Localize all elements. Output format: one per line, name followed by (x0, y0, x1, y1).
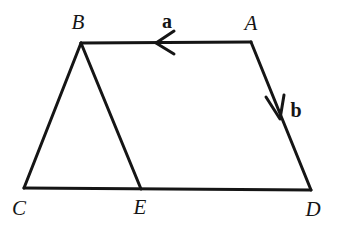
geometry-figure: B A C E D a b (0, 0, 340, 225)
segment-BA (81, 42, 251, 43)
vertex-label-C: C (12, 198, 26, 219)
vector-label-a: a (162, 11, 172, 31)
figure-canvas (0, 0, 340, 225)
vertex-label-D: D (305, 199, 320, 220)
vertex-label-E: E (134, 197, 147, 218)
vertex-label-A: A (245, 13, 258, 34)
vertex-label-B: B (72, 12, 85, 33)
vector-label-b: b (290, 100, 301, 120)
segment-BE (81, 43, 141, 189)
segment-DC (24, 188, 311, 190)
segment-CB (24, 43, 81, 188)
